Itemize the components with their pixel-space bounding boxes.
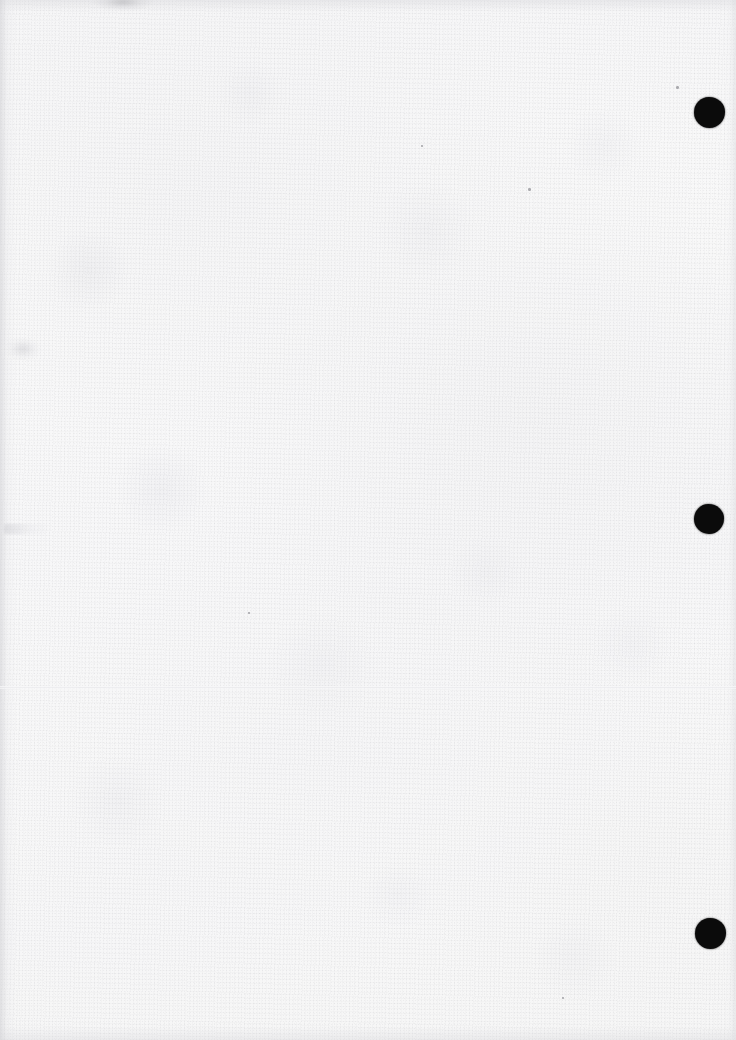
page-edge-shadow-right bbox=[722, 0, 736, 1040]
paper-weave-texture bbox=[0, 0, 736, 1040]
fold-crease-line bbox=[0, 686, 736, 689]
scanned-page: Blank off-white scanned paper page with … bbox=[0, 0, 736, 1040]
dust-speck bbox=[562, 997, 564, 999]
punch-hole-top bbox=[694, 97, 725, 128]
smudge-left-line bbox=[4, 524, 50, 534]
page-edge-shadow-left bbox=[0, 0, 16, 1040]
punch-hole-middle bbox=[694, 504, 724, 534]
smudge-left-mid bbox=[6, 338, 40, 360]
dust-speck bbox=[528, 188, 531, 191]
dust-speck bbox=[248, 612, 250, 614]
dust-speck bbox=[676, 86, 679, 89]
page-edge-shadow-bottom bbox=[0, 1026, 736, 1040]
paper-grain-texture bbox=[0, 0, 736, 1040]
punch-hole-bottom bbox=[695, 918, 726, 949]
smudge-top-edge bbox=[95, 0, 151, 10]
page-edge-shadow-top bbox=[0, 0, 736, 12]
paper-fibre-texture bbox=[0, 0, 736, 1040]
dust-speck bbox=[421, 145, 423, 147]
